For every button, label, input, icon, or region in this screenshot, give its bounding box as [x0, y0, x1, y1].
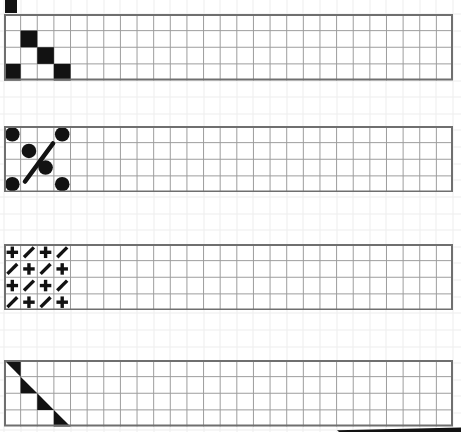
band-triangles-diagonal [4, 360, 453, 427]
bottom-right-bar [330, 427, 461, 432]
bottom-right-bar-shape [330, 427, 461, 432]
partial-square-top-left [5, 0, 18, 13]
band-plus-slash-checkerboard-grid [4, 244, 453, 311]
band-squares-diagonal [4, 14, 453, 81]
band-circles-slash-grid [4, 126, 453, 193]
band-squares-diagonal-grid [4, 14, 453, 81]
pattern-sheet [0, 0, 461, 432]
band-triangles-diagonal-grid [4, 360, 453, 427]
band-plus-slash-checkerboard [4, 244, 453, 311]
band-circles-slash [4, 126, 453, 193]
